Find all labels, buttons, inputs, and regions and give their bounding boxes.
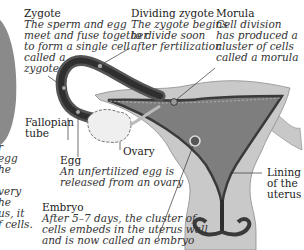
egg-label: Egg An unfertilized egg is released from… xyxy=(60,155,183,188)
egg-desc-line: released from an ovary xyxy=(60,177,183,188)
cropped-left-text: r egg he very he us, it f cells. xyxy=(0,142,33,230)
egg-cell xyxy=(76,110,81,115)
lining-label: Lining of the uterus xyxy=(267,167,301,200)
zygote-label: Zygote The sperm and egg meet and fuse t… xyxy=(24,8,148,74)
ovary xyxy=(88,110,132,143)
embryo-cell xyxy=(190,136,200,146)
fallopian-tube-label: Fallopian tube xyxy=(25,117,74,139)
embryo-label: Embryo After 5–7 days, the cluster of ce… xyxy=(42,202,208,246)
fallopian-tube-line: tube xyxy=(25,128,74,139)
cropped-text-line: f cells. xyxy=(0,219,33,230)
morula-label: Morula Cell division has produced a clus… xyxy=(216,8,298,63)
reproduction-diagram: Zygote The sperm and egg meet and fuse t… xyxy=(0,0,304,250)
embryo-desc-line: and is now called an embryo xyxy=(42,235,208,246)
cropped-text-line: he xyxy=(0,164,33,175)
zygote-cell xyxy=(62,86,67,91)
zygote-desc-line: zygote xyxy=(24,63,148,74)
cropped-figure-shape xyxy=(0,20,16,145)
lining-line: uterus xyxy=(267,189,301,200)
dividing-zygote-desc-line: after fertilization xyxy=(131,41,228,52)
morula-desc-line: called a morula xyxy=(216,52,298,63)
dividing-zygote-label: Dividing zygote The zygote begins to div… xyxy=(131,8,228,52)
